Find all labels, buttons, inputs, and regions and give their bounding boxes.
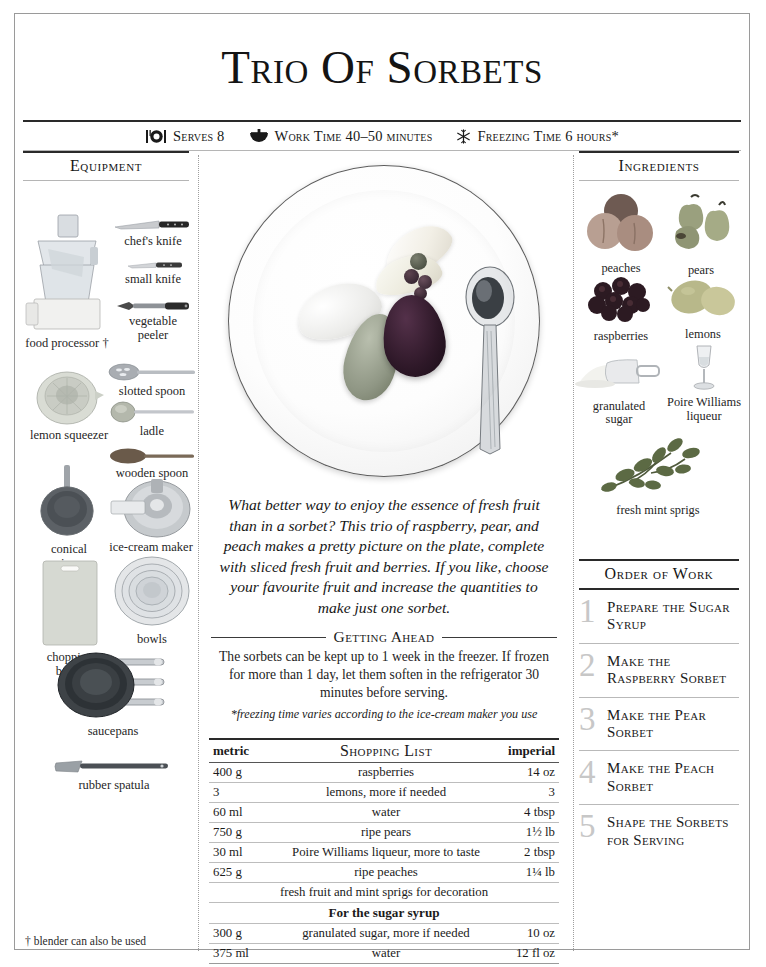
equipment-label: lemon squeezer [27, 429, 111, 443]
order-of-work-step[interactable]: 2Make the Raspberry Sorbet [579, 644, 739, 698]
getting-ahead-body: The sorbets can be kept up to 1 week in … [219, 648, 549, 701]
step-number: 4 [579, 758, 600, 787]
cell-metric: 3 [209, 783, 279, 803]
berry [404, 269, 419, 284]
order-of-work-section: Order of Work 1Prepare the Sugar Syrup2M… [571, 559, 747, 858]
equipment-item-chefs-knife: chef's knife [111, 217, 195, 249]
cell-imperial: 1½ lb [493, 823, 559, 843]
ingredients-rule-bottom [579, 180, 739, 181]
berry [414, 287, 427, 300]
step-number: 2 [579, 651, 600, 680]
step-label: Make the Pear Sorbet [607, 705, 739, 742]
order-of-work-heading-block: Order of Work [579, 559, 739, 590]
header-metric: metric [209, 739, 279, 763]
cell-imperial: 1¼ lb [493, 863, 559, 883]
table-row-note: fresh fruit and mint sprigs for decorati… [209, 883, 559, 903]
equipment-item-conical-sieve: conical sieve [31, 463, 107, 571]
cell-imperial: 12 fl oz [493, 944, 559, 964]
order-of-work-step[interactable]: 1Prepare the Sugar Syrup [579, 590, 739, 644]
cell-item: water [279, 803, 493, 823]
step-label: Shape the Sorbets for Serving [607, 812, 739, 849]
meta-work-time: Work Time 40–50 minutes [249, 128, 433, 145]
vegetable-peeler-icon [115, 299, 191, 313]
cell-imperial: 3 [493, 783, 559, 803]
ingredient-label: peaches [579, 262, 663, 276]
equipment-label: food processor † [21, 337, 113, 351]
meta-serves-label: Serves 8 [173, 128, 224, 145]
ingredient-item-raspberries: raspberries [579, 275, 663, 343]
mint-sprigs-icon [599, 431, 717, 497]
shopping-list-header-row: metric Shopping List imperial [209, 739, 559, 763]
ingredients-heading-block: Ingredients [579, 151, 739, 181]
small-knife-icon [116, 259, 190, 271]
snowflake-icon [456, 129, 471, 144]
equipment-item-ladle: ladle [107, 401, 197, 439]
order-of-work-step[interactable]: 5Shape the Sorbets for Serving [579, 805, 739, 858]
ingredient-label: granulated sugar [573, 400, 665, 427]
spoon-icon [460, 265, 520, 455]
recipe-page: Trio of Sorbets Serves 8 [14, 13, 750, 950]
equipment-item-slotted-spoon: slotted spoon [107, 363, 197, 399]
meta-work-time-label: Work Time 40–50 minutes [275, 128, 433, 145]
pear-slice [375, 214, 459, 287]
table-row: 625 gripe peaches1¼ lb [209, 863, 559, 883]
table-row: 400 graspberries14 oz [209, 763, 559, 783]
shopping-list-head: metric Shopping List imperial [209, 739, 559, 763]
pear-slice [371, 249, 446, 300]
meta-bar: Serves 8 Work Time 40–50 minutes [15, 122, 749, 150]
equipment-item-wooden-spoon: wooden spoon [107, 447, 197, 481]
equipment-item-small-knife: small knife [111, 259, 195, 287]
cell-metric: 625 g [209, 863, 279, 883]
saucepans-icon [54, 647, 172, 723]
cell-item: granulated sugar, more if needed [279, 924, 493, 944]
ingredient-item-pears: pears [659, 191, 743, 277]
getting-ahead-rule-right [442, 637, 557, 638]
slotted-spoon-icon [108, 363, 196, 383]
wooden-spoon-icon [108, 447, 196, 465]
cell-item: Poire Williams liqueur, more to taste [279, 843, 493, 863]
equipment-item-saucepans: saucepans [53, 647, 173, 739]
recipe-photo [203, 151, 565, 491]
equipment-label: slotted spoon [107, 385, 197, 399]
cell-metric: 750 g [209, 823, 279, 843]
recipe-blurb: What better way to enjoy the essence of … [213, 495, 555, 618]
cell-metric: 300 g [209, 924, 279, 944]
order-of-work-list: 1Prepare the Sugar Syrup2Make the Raspbe… [579, 590, 739, 858]
ladle-icon [108, 401, 196, 423]
table-row: 30 mlPoire Williams liqueur, more to tas… [209, 843, 559, 863]
cell-subheading: For the sugar syrup [209, 903, 559, 924]
equipment-column: Equipment chef's knife [15, 151, 197, 951]
chopping-board-icon [39, 557, 101, 649]
equipment-heading-block: Equipment [23, 151, 189, 181]
rubber-spatula-icon [52, 755, 176, 777]
equipment-footnote: † blender can also be used [25, 935, 146, 947]
cell-metric: 30 ml [209, 843, 279, 863]
order-of-work-heading: Order of Work [579, 561, 739, 588]
order-of-work-step[interactable]: 3Make the Pear Sorbet [579, 698, 739, 752]
order-of-work-step[interactable]: 4Make the Peach Sorbet [579, 751, 739, 805]
cell-imperial: 10 oz [493, 924, 559, 944]
mixing-bowl-icon [249, 129, 269, 144]
equipment-items: chef's knife small knife [15, 185, 197, 885]
cell-item: fresh fruit and mint sprigs for decorati… [209, 883, 559, 903]
equipment-rule-bottom [23, 180, 189, 181]
cell-metric: 400 g [209, 763, 279, 783]
equipment-item-vegetable-peeler: vegetable peeler [111, 299, 195, 343]
berry [410, 253, 427, 270]
ingredient-item-peaches: peaches [579, 193, 663, 275]
cell-item: raspberries [279, 763, 493, 783]
cell-item: ripe peaches [279, 863, 493, 883]
plate-illustration [228, 165, 540, 477]
step-number: 1 [579, 597, 600, 626]
ingredient-label: fresh mint sprigs [597, 504, 719, 518]
ice-cream-maker-icon [107, 477, 195, 539]
equipment-label: vegetable peeler [111, 315, 195, 343]
main-columns: Equipment chef's knife [15, 151, 749, 951]
ingredients-heading: Ingredients [579, 153, 739, 180]
step-number: 5 [579, 812, 600, 841]
cell-item: water [279, 944, 493, 964]
ingredients-items: peaches pears [571, 183, 747, 555]
shopping-list-table: metric Shopping List imperial 400 graspb… [209, 738, 559, 964]
equipment-item-ice-cream-maker: ice-cream maker [105, 477, 197, 555]
ingredient-item-granulated-sugar: granulated sugar [573, 353, 665, 427]
